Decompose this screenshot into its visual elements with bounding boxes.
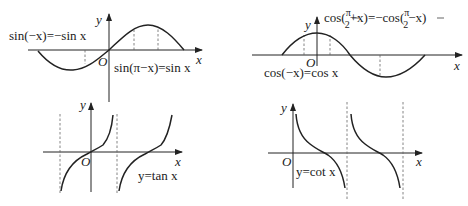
- cotangent-equation: y=cot x: [296, 164, 336, 179]
- cotangent-branch-2: [351, 114, 400, 188]
- cosine-identity-bottom: cos(−x)=cos x: [264, 65, 339, 80]
- cosine-identity-top: cos(π2+x)=−cos(π2−x): [324, 7, 426, 30]
- cosine-panel: cos(π2+x)=−cos(π2−x) cos(−x)=cos x O x y: [252, 7, 462, 80]
- cosine-origin-label: O: [306, 55, 316, 70]
- cotangent-x-label: x: [415, 154, 422, 169]
- sine-panel: sin(−x)=−sin x sin(π−x)=sin x O x y: [9, 12, 202, 102]
- sine-y-label: y: [94, 12, 102, 27]
- cotangent-origin-label: O: [282, 154, 292, 169]
- sine-identity-1: sin(−x)=−sin x: [9, 28, 87, 43]
- cotangent-panel: O x y y=cot x: [268, 100, 422, 200]
- tangent-y-label: y: [78, 97, 86, 112]
- tangent-equation: y=tan x: [138, 168, 178, 183]
- cotangent-y-label: y: [279, 100, 287, 115]
- sine-origin-label: O: [98, 54, 108, 69]
- sine-identity-2: sin(π−x)=sin x: [114, 60, 191, 75]
- tangent-panel: O x y y=tan x: [43, 97, 182, 194]
- sine-x-label: x: [195, 52, 202, 67]
- tangent-branch-1: [61, 115, 113, 191]
- trig-graphs-figure: sin(−x)=−sin x sin(π−x)=sin x O x y cos(…: [0, 0, 468, 206]
- tangent-origin-label: O: [81, 154, 91, 169]
- cosine-y-label: y: [303, 17, 311, 32]
- cosine-x-label: x: [453, 58, 460, 73]
- tangent-x-label: x: [174, 154, 181, 169]
